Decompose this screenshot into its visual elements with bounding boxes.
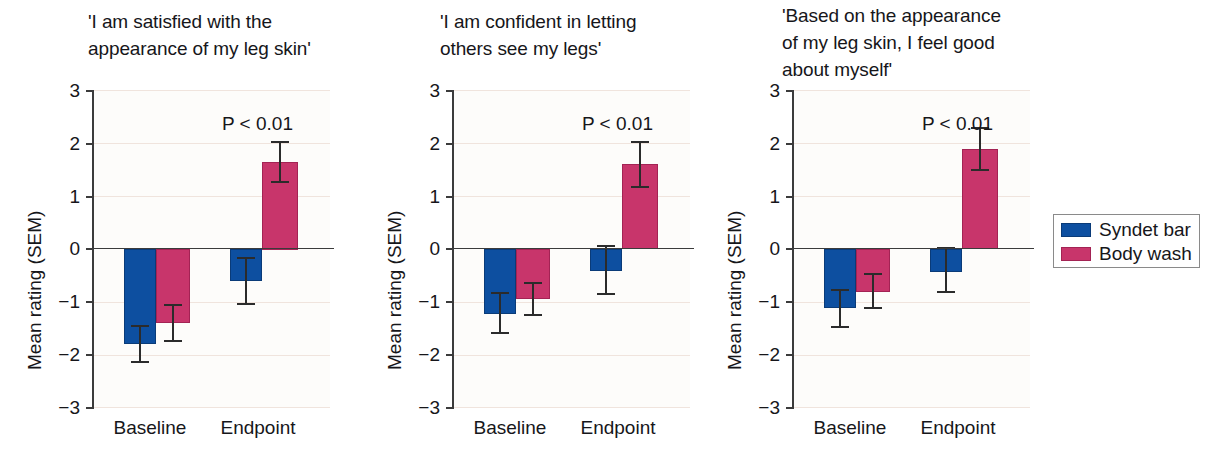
ytick-minus1 xyxy=(446,301,453,303)
errorbar-baseline-bodywash xyxy=(864,273,882,309)
legend-label-syndet-bar: Syndet bar xyxy=(1099,219,1191,241)
chart-legend: Syndet bar Body wash xyxy=(1053,214,1200,268)
yticklabel-1: 1 xyxy=(748,187,780,206)
yticklabel-3: 3 xyxy=(48,81,80,100)
errorbar-baseline-syndet xyxy=(131,325,149,363)
errorbar-endpoint-syndet xyxy=(937,247,955,293)
yticklabel-1: 1 xyxy=(408,187,440,206)
ytick-minus1 xyxy=(786,301,793,303)
errorbar-baseline-bodywash xyxy=(164,304,182,342)
yticklabel-minus3: −3 xyxy=(400,398,440,417)
panel-2-xtick-baseline: Baseline xyxy=(455,417,565,439)
legend-swatch-body-wash xyxy=(1061,247,1091,261)
ytick-1 xyxy=(446,196,453,198)
gridline-2 xyxy=(93,143,330,144)
gridline-2 xyxy=(793,143,1030,144)
gridline-minus3 xyxy=(453,407,690,408)
panel-3-zero-line xyxy=(790,248,1034,249)
gridline-minus3 xyxy=(793,407,1030,408)
errorbar-endpoint-syndet xyxy=(237,257,255,305)
yticklabel-0: 0 xyxy=(408,239,440,258)
legend-item-body-wash[interactable]: Body wash xyxy=(1061,243,1192,265)
panel-3-xtick-endpoint: Endpoint xyxy=(903,417,1013,439)
panel-1-xtick-baseline: Baseline xyxy=(95,417,205,439)
errorbar-endpoint-bodywash xyxy=(271,141,289,183)
yticklabel-minus2: −2 xyxy=(40,345,80,364)
ytick-2 xyxy=(786,143,793,145)
ytick-minus1 xyxy=(86,301,93,303)
errorbar-endpoint-bodywash xyxy=(631,141,649,188)
yticklabel-minus3: −3 xyxy=(40,398,80,417)
yticklabel-minus2: −2 xyxy=(740,345,780,364)
ytick-3 xyxy=(786,90,793,92)
panel-1-xtick-endpoint: Endpoint xyxy=(203,417,313,439)
panel-2-xtick-endpoint: Endpoint xyxy=(563,417,673,439)
errorbar-baseline-bodywash xyxy=(524,282,542,316)
yticklabel-3: 3 xyxy=(748,81,780,100)
errorbar-baseline-syndet xyxy=(831,289,849,328)
ytick-minus3 xyxy=(446,407,453,409)
ytick-minus2 xyxy=(786,354,793,356)
panel-2-pvalue: P < 0.01 xyxy=(582,113,653,135)
ytick-0 xyxy=(446,248,453,250)
errorbar-endpoint-syndet xyxy=(597,245,615,295)
yticklabel-0: 0 xyxy=(748,239,780,258)
panel-3-plot-area xyxy=(793,90,1030,408)
ytick-1 xyxy=(86,196,93,198)
yticklabel-2: 2 xyxy=(408,134,440,153)
ytick-2 xyxy=(446,143,453,145)
ytick-3 xyxy=(86,90,93,92)
panel-3-title: 'Based on the appearance of my leg skin,… xyxy=(782,2,1082,83)
yticklabel-2: 2 xyxy=(748,134,780,153)
yticklabel-1: 1 xyxy=(48,187,80,206)
yticklabel-2: 2 xyxy=(48,134,80,153)
yticklabel-0: 0 xyxy=(48,239,80,258)
legend-swatch-syndet-bar xyxy=(1061,223,1091,237)
ytick-0 xyxy=(86,248,93,250)
ytick-minus2 xyxy=(86,354,93,356)
panel-1-zero-line xyxy=(90,248,334,249)
yticklabel-minus1: −1 xyxy=(740,292,780,311)
gridline-3 xyxy=(453,90,690,91)
panel-1-title: 'I am satisfied with the appearance of m… xyxy=(88,8,388,62)
errorbar-baseline-syndet xyxy=(491,292,509,334)
yticklabel-minus1: −1 xyxy=(40,292,80,311)
panel-3-pvalue: P < 0.01 xyxy=(922,113,993,135)
yticklabel-3: 3 xyxy=(408,81,440,100)
legend-label-body-wash: Body wash xyxy=(1099,243,1192,265)
figure-bar-chart-panels: 'I am satisfied with the appearance of m… xyxy=(0,0,1224,458)
gridline-minus2 xyxy=(793,355,1030,356)
yticklabel-minus3: −3 xyxy=(740,398,780,417)
gridline-minus2 xyxy=(453,355,690,356)
chart-panel-1: 'I am satisfied with the appearance of m… xyxy=(0,0,400,458)
yticklabel-minus2: −2 xyxy=(400,345,440,364)
ytick-1 xyxy=(786,196,793,198)
legend-item-syndet-bar[interactable]: Syndet bar xyxy=(1061,219,1191,241)
panel-3-xtick-baseline: Baseline xyxy=(795,417,905,439)
gridline-minus3 xyxy=(93,407,330,408)
gridline-2 xyxy=(453,143,690,144)
ytick-0 xyxy=(786,248,793,250)
panel-2-zero-line xyxy=(450,248,694,249)
panel-2-plot-area xyxy=(453,90,690,408)
ytick-2 xyxy=(86,143,93,145)
ytick-3 xyxy=(446,90,453,92)
panel-2-title: 'I am confident in letting others see my… xyxy=(440,8,740,62)
gridline-3 xyxy=(793,90,1030,91)
panel-1-pvalue: P < 0.01 xyxy=(222,113,293,135)
panel-1-plot-area xyxy=(93,90,330,408)
ytick-minus3 xyxy=(786,407,793,409)
ytick-minus2 xyxy=(446,354,453,356)
gridline-3 xyxy=(93,90,330,91)
page-edge xyxy=(0,452,1224,458)
gridline-minus2 xyxy=(93,355,330,356)
yticklabel-minus1: −1 xyxy=(400,292,440,311)
chart-panel-3: 'Based on the appearance of my leg skin,… xyxy=(740,0,1070,458)
ytick-minus3 xyxy=(86,407,93,409)
